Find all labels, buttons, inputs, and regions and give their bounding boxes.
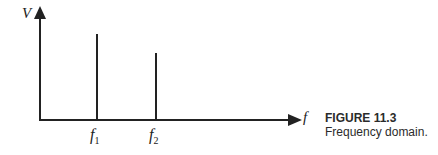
tick-label-f2-sub: 2 bbox=[153, 135, 158, 146]
y-axis-label: V bbox=[22, 5, 31, 22]
figure-caption: FIGURE 11.3 Frequency domain. bbox=[325, 111, 428, 139]
tick-label-f2: f2 bbox=[149, 126, 158, 146]
tick-label-f1: f1 bbox=[90, 126, 99, 146]
caption-text: Frequency domain. bbox=[325, 125, 428, 139]
x-axis-arrow-icon bbox=[288, 114, 302, 126]
caption-title: FIGURE 11.3 bbox=[325, 111, 428, 125]
tick-label-f1-sub: 1 bbox=[94, 135, 99, 146]
x-axis-label: f bbox=[303, 109, 307, 126]
y-axis-arrow-icon bbox=[34, 6, 46, 19]
